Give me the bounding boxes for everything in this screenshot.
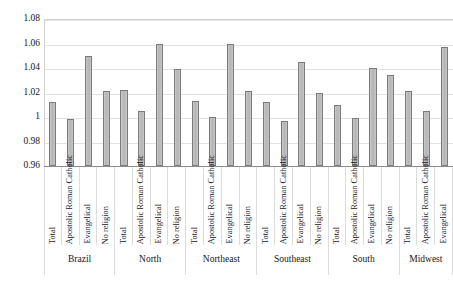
y-axis-tick-label: 1.02: [23, 88, 40, 98]
category-label-cell: Total: [329, 167, 347, 245]
bar: [85, 56, 92, 166]
y-axis-tick-label: 1.06: [23, 39, 40, 49]
category-label-cell: No religion: [240, 167, 258, 245]
bar: [441, 47, 448, 166]
group-label: Midwest: [409, 255, 442, 265]
category-label: Total: [404, 227, 412, 244]
category-label: Evangelical: [297, 204, 305, 244]
y-axis: 1.081.061.041.0210.980.96: [0, 0, 44, 175]
y-axis-tick-label: 0.98: [23, 137, 40, 147]
category-label-cell: No religion: [97, 167, 115, 245]
category-label-cell: No religion: [168, 167, 186, 245]
category-label-cell: Total: [400, 167, 418, 245]
category-label: Apostolic Roman Catholic: [208, 155, 216, 244]
group-label-cell: Brazil: [44, 245, 115, 275]
category-label-cell: No religion: [311, 167, 329, 245]
bar: [227, 44, 234, 167]
y-axis-tick-label: 1: [35, 112, 40, 122]
category-label-cell: Evangelical: [151, 167, 169, 245]
category-label: Apostolic Roman Catholic: [279, 155, 287, 244]
category-label-cell: Apostolic Roman Catholic: [275, 167, 293, 245]
category-label-cell: Evangelical: [435, 167, 453, 245]
group-label: North: [139, 255, 161, 265]
category-label-cell: Total: [44, 167, 62, 245]
bar: [245, 91, 252, 166]
bar-chart: 1.081.061.041.0210.980.96 TotalApostolic…: [0, 0, 453, 293]
group-label-row: BrazilNorthNortheastSoutheastSouthMidwes…: [44, 245, 453, 275]
group-label-cell: Southeast: [257, 245, 328, 275]
category-label-cell: Evangelical: [222, 167, 240, 245]
category-label: No religion: [244, 206, 252, 244]
category-label: Apostolic Roman Catholic: [66, 155, 74, 244]
category-label: No religion: [173, 206, 181, 244]
bar: [334, 105, 341, 166]
category-label-cell: No religion: [382, 167, 400, 245]
category-label: Evangelical: [439, 204, 447, 244]
bar: [387, 75, 394, 166]
category-label: Evangelical: [368, 204, 376, 244]
category-label-cell: Total: [257, 167, 275, 245]
category-label: Evangelical: [155, 204, 163, 244]
bar: [156, 44, 163, 167]
group-label-cell: Midwest: [400, 245, 453, 275]
category-label-cell: Total: [186, 167, 204, 245]
bar: [49, 102, 56, 166]
bar: [298, 62, 305, 166]
category-label-cell: Total: [115, 167, 133, 245]
category-label-cell: Apostolic Roman Catholic: [133, 167, 151, 245]
group-label-cell: Northeast: [186, 245, 257, 275]
category-label-cell: Apostolic Roman Catholic: [346, 167, 364, 245]
y-axis-tick-label: 1.04: [23, 63, 40, 73]
y-axis-tick-label: 0.96: [23, 161, 40, 171]
bar: [174, 69, 181, 166]
group-label: Northeast: [203, 255, 240, 265]
group-label-cell: North: [115, 245, 186, 275]
category-label: Total: [119, 227, 127, 244]
category-label-cell: Apostolic Roman Catholic: [417, 167, 435, 245]
bar: [405, 91, 412, 166]
category-label-cell: Apostolic Roman Catholic: [62, 167, 80, 245]
category-label: Apostolic Roman Catholic: [137, 155, 145, 244]
group-label: Brazil: [68, 255, 91, 265]
category-label-cell: Apostolic Roman Catholic: [204, 167, 222, 245]
category-label: No religion: [102, 206, 110, 244]
bars-layer: [44, 19, 453, 166]
category-label: Total: [333, 227, 341, 244]
group-label: Southeast: [274, 255, 311, 265]
category-label: Apostolic Roman Catholic: [422, 155, 430, 244]
category-label-cell: Evangelical: [364, 167, 382, 245]
category-label: No religion: [315, 206, 323, 244]
category-label: Total: [49, 227, 57, 244]
group-label: South: [352, 255, 374, 265]
category-label: Total: [262, 227, 270, 244]
y-axis-tick-label: 1.08: [23, 14, 40, 24]
category-label: Evangelical: [84, 204, 92, 244]
bar: [103, 91, 110, 166]
category-label-row: TotalApostolic Roman CatholicEvangelical…: [44, 167, 453, 245]
bar: [316, 93, 323, 167]
bar: [120, 90, 127, 166]
bar: [192, 101, 199, 166]
category-label-cell: Evangelical: [293, 167, 311, 245]
category-label: No religion: [386, 206, 394, 244]
category-label-cell: Evangelical: [80, 167, 98, 245]
group-label-cell: South: [329, 245, 400, 275]
bar: [369, 68, 376, 166]
category-label: Evangelical: [226, 204, 234, 244]
category-label: Total: [190, 227, 198, 244]
bar: [263, 102, 270, 166]
category-label: Apostolic Roman Catholic: [350, 155, 358, 244]
